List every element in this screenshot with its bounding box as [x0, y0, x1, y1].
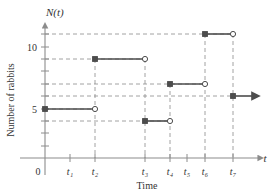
open-marker-step-3	[167, 118, 172, 123]
open-marker-step-1	[92, 106, 97, 111]
open-marker-step-2	[142, 56, 147, 61]
xtick-label-t4: t₄	[167, 166, 174, 177]
open-marker-step-5	[230, 31, 235, 36]
closed-marker-step-3	[143, 119, 148, 124]
closed-marker-step-6	[231, 94, 236, 99]
origin-label: 0	[36, 166, 41, 177]
ytick-label-5: 5	[32, 104, 37, 115]
plot-canvas: 10 5 0 t₁ t₂ t₃ t₄ t₅ t₆ t₇ N(t) t Time …	[0, 0, 275, 192]
step-function-figure: 10 5 0 t₁ t₂ t₃ t₄ t₅ t₆ t₇ N(t) t Time …	[0, 0, 275, 192]
step-segments	[45, 34, 252, 121]
closed-marker-step-2	[93, 57, 98, 62]
xtick-label-t2: t₂	[92, 166, 99, 177]
axes	[20, 28, 258, 175]
x-axis-symbol: t	[263, 152, 267, 164]
xtick-label-t3: t₃	[142, 166, 149, 177]
open-marker-step-4	[202, 81, 207, 86]
xtick-label-t7: t₇	[230, 166, 237, 177]
open-endpoint-markers	[92, 31, 235, 123]
y-axis-symbol: N(t)	[45, 6, 64, 19]
xtick-label-t1: t₁	[67, 166, 73, 177]
xtick-label-t5: t₅	[184, 166, 191, 177]
xtick-label-t6: t₆	[202, 166, 209, 177]
x-axis-label: Time	[137, 180, 158, 191]
closed-marker-step-5	[203, 32, 208, 37]
ytick-label-10: 10	[27, 42, 37, 53]
closed-marker-step-4	[168, 82, 173, 87]
y-axis-label: Number of rabbits	[5, 63, 16, 136]
closed-marker-step-1	[43, 107, 48, 112]
